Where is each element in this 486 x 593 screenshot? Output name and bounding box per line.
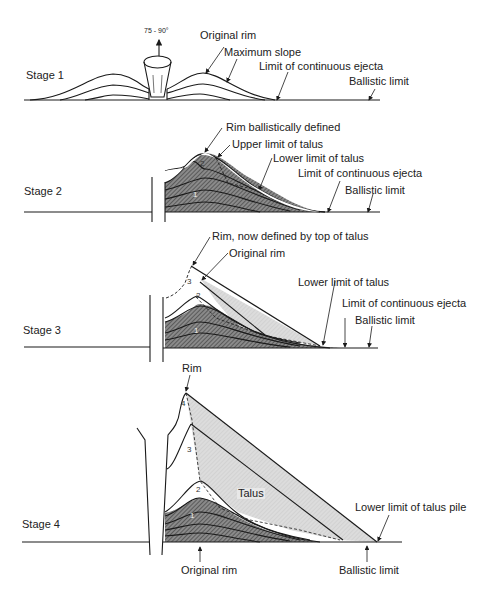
lower-limit-talus-pile-label: Lower limit of talus pile xyxy=(355,502,466,513)
maximum-slope-label: Maximum slope xyxy=(224,47,301,58)
stage-2-label: Stage 2 xyxy=(24,186,62,197)
limit-continuous-ejecta-label-2: Limit of continuous ejecta xyxy=(298,168,422,179)
original-rim-label-4: Original rim xyxy=(181,565,237,576)
layer-2-number-3: 2 xyxy=(196,292,200,300)
layer-3-number: 3 xyxy=(187,278,191,286)
rim-label-4: Rim xyxy=(182,363,202,374)
rim-top-talus-label: Rim, now defined by top of talus xyxy=(212,231,369,242)
ballistic-limit-label-2: Ballistic limit xyxy=(345,185,405,196)
angle-label: 75 - 90° xyxy=(144,27,169,34)
layer-1-number-4: 1 xyxy=(190,512,194,520)
rim-ballistically-defined-label: Rim ballistically defined xyxy=(226,122,340,133)
ballistic-limit-label-4: Ballistic limit xyxy=(339,565,399,576)
ballistic-limit-label: Ballistic limit xyxy=(349,76,409,87)
stage-3-label: Stage 3 xyxy=(23,325,61,336)
lower-limit-talus-label-3: Lower limit of talus xyxy=(298,277,389,288)
original-rim-label-3: Original rim xyxy=(229,248,285,259)
layer-1-number-3: 1 xyxy=(194,327,198,335)
stage-4-section xyxy=(22,375,402,562)
layer-4-number: 4 xyxy=(181,400,185,408)
layer-2-number: 2 xyxy=(200,160,204,168)
stage-4-label: Stage 4 xyxy=(22,519,60,530)
limit-continuous-ejecta-label: Limit of continuous ejecta xyxy=(259,61,383,72)
talus-label: Talus xyxy=(237,488,265,499)
layer-1-number: 1 xyxy=(193,191,197,199)
ballistic-limit-label-3: Ballistic limit xyxy=(355,315,415,326)
original-rim-label: Original rim xyxy=(200,30,256,41)
layer-2-number-4: 2 xyxy=(196,486,200,494)
layer-3-number-4: 3 xyxy=(187,446,191,454)
upper-limit-talus-label: Upper limit of talus xyxy=(232,139,323,150)
stage-3-section xyxy=(24,237,378,362)
limit-continuous-ejecta-label-3: Limit of continuous ejecta xyxy=(342,298,466,309)
stage-1-label: Stage 1 xyxy=(26,70,64,81)
lower-limit-talus-label: Lower limit of talus xyxy=(273,153,364,164)
